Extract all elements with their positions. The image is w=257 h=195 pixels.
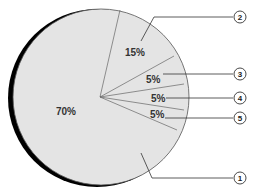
- pie-chart: 70% 15% 5% 5% 5% 2 3 4 5 1: [0, 0, 257, 195]
- svg-text:3: 3: [238, 70, 243, 79]
- callout-5: 5: [234, 112, 246, 124]
- slice-label-1: 70%: [56, 106, 76, 117]
- slice-label-3: 5%: [146, 74, 161, 85]
- callout-2: 2: [234, 11, 246, 23]
- callout-3: 3: [234, 68, 246, 80]
- svg-text:1: 1: [238, 174, 243, 183]
- callout-4: 4: [234, 92, 246, 104]
- slice-label-2: 15%: [125, 47, 145, 58]
- slice-label-4: 5%: [151, 93, 166, 104]
- svg-text:5: 5: [238, 114, 243, 123]
- slice-label-5: 5%: [150, 109, 165, 120]
- svg-text:2: 2: [238, 13, 243, 22]
- callout-1: 1: [234, 172, 246, 184]
- svg-text:4: 4: [238, 94, 243, 103]
